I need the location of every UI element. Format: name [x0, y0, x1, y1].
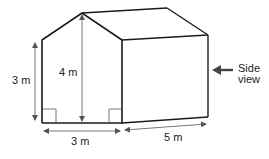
side-view-label-line2: view [238, 74, 260, 85]
house-drawing [0, 0, 269, 159]
wall-height-label: 3 m [12, 75, 30, 86]
front-width-label: 3 m [71, 136, 89, 147]
house-diagram: 3 m 4 m 3 m 5 m Side view [0, 0, 269, 159]
apex-height-label: 4 m [59, 67, 77, 78]
depth-dimension [125, 124, 206, 130]
depth-label: 5 m [164, 132, 182, 143]
side-view-arrow-icon [212, 65, 233, 75]
